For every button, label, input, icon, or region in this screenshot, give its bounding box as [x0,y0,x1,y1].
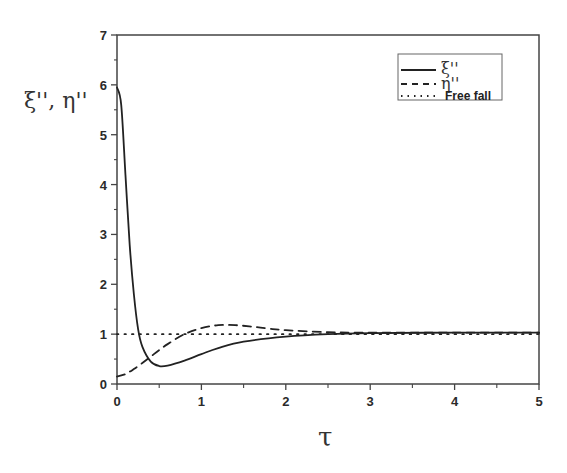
y-tick-label: 6 [100,78,107,93]
y-tick-label: 7 [100,28,107,43]
y-axis-title: ξ'', η'' [24,88,87,113]
x-tick-label: 2 [282,394,289,409]
legend: ξ'' η'' Free fall [398,54,502,103]
y-tick-label: 2 [100,277,107,292]
legend-label-freefall: Free fall [445,89,491,103]
y-tick-label: 4 [100,178,108,193]
y-tick-label: 0 [100,377,107,392]
x-axis-title: τ [318,422,332,452]
y-tick-label: 5 [100,128,107,143]
x-axis-ticks: 012345 [113,384,542,409]
x-tick-label: 5 [535,394,542,409]
x-tick-label: 0 [113,394,120,409]
chart: 01234567 012345 ξ'', η'' τ ξ'' η'' Free … [0,0,567,473]
y-tick-label: 1 [100,327,107,342]
series-line-solid [117,87,539,366]
x-tick-label: 3 [367,394,374,409]
y-axis-ticks: 01234567 [100,28,117,392]
x-tick-label: 4 [451,394,459,409]
x-tick-label: 1 [198,394,205,409]
y-tick-label: 3 [100,227,107,242]
series-lines [117,87,539,376]
